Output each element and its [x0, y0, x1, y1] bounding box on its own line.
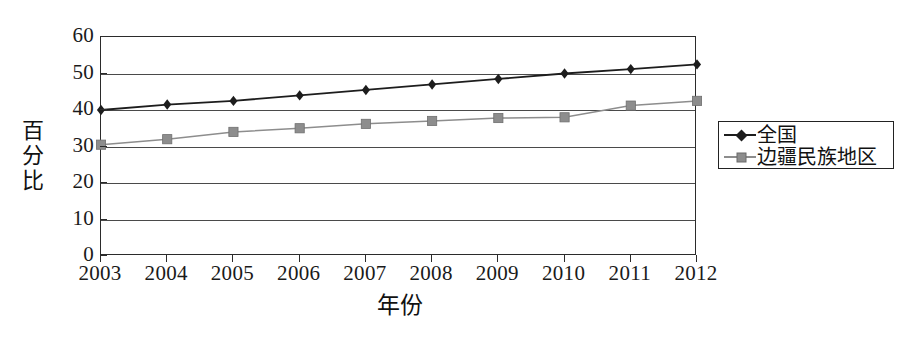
x-tick-label-2010: 2010: [529, 262, 599, 284]
data-point-2011: [626, 101, 635, 110]
data-point-2005: [229, 96, 237, 106]
data-point-2010: [560, 113, 569, 122]
square-marker-icon: [723, 147, 757, 167]
y-tick-mark-60: [100, 36, 107, 37]
series-line: [101, 101, 697, 145]
x-tick-label-2011: 2011: [595, 262, 665, 284]
y-tick-mark-30: [100, 146, 107, 147]
data-point-2009: [494, 74, 502, 84]
y-tick-mark-10: [100, 219, 107, 220]
series-national: [97, 59, 701, 115]
x-tick-label-2012: 2012: [661, 262, 731, 284]
diamond-marker-icon: [723, 125, 757, 145]
data-point-2009: [494, 113, 503, 122]
data-point-2008: [428, 116, 437, 125]
legend-item-border-region: 边疆民族地区: [723, 146, 889, 168]
y-tick-label-50: 50: [60, 62, 94, 83]
data-point-2011: [627, 64, 635, 74]
data-point-2003: [97, 105, 105, 115]
plot-area: [100, 36, 696, 255]
y-tick-mark-20: [100, 182, 107, 183]
data-point-2010: [560, 68, 568, 78]
data-point-2004: [163, 135, 172, 144]
y-tick-mark-50: [100, 73, 107, 74]
legend-item-national: 全国: [723, 124, 889, 146]
x-tick-label-2008: 2008: [396, 262, 466, 284]
y-axis-tick-labels: 0102030405060: [54, 0, 94, 348]
x-tick-label-2003: 2003: [65, 262, 135, 284]
data-point-2005: [229, 127, 238, 136]
y-axis-title-char-3: 比: [18, 168, 48, 193]
series-line: [101, 64, 697, 110]
data-point-2007: [361, 119, 370, 128]
series-plot: [101, 37, 697, 256]
y-tick-label-40: 40: [60, 98, 94, 119]
x-tick-label-2006: 2006: [264, 262, 334, 284]
y-axis-title-char-2: 分: [18, 143, 48, 168]
x-tick-label-2009: 2009: [462, 262, 532, 284]
legend-label-national: 全国: [757, 125, 797, 146]
data-point-2007: [362, 85, 370, 95]
x-axis-title: 年份: [330, 292, 470, 318]
x-tick-label-2007: 2007: [330, 262, 400, 284]
y-tick-mark-40: [100, 109, 107, 110]
legend-label-border-region: 边疆民族地区: [757, 147, 877, 168]
chart-legend: 全国 边疆民族地区: [718, 121, 894, 169]
x-tick-label-2005: 2005: [197, 262, 267, 284]
data-point-2012: [692, 96, 701, 105]
y-axis-title-char-1: 百: [18, 118, 48, 143]
y-tick-label-10: 10: [60, 208, 94, 229]
data-point-2006: [296, 90, 304, 100]
chart-screenshot: 百 分 比 0102030405060 20032004200520062007…: [0, 0, 924, 348]
x-tick-label-2004: 2004: [131, 262, 201, 284]
data-point-2004: [163, 99, 171, 109]
y-axis-title: 百 分 比: [18, 118, 48, 193]
y-tick-label-20: 20: [60, 171, 94, 192]
y-tick-mark-0: [100, 255, 107, 256]
data-point-2012: [693, 59, 701, 69]
data-point-2008: [428, 79, 436, 89]
data-point-2006: [295, 124, 304, 133]
y-tick-label-30: 30: [60, 135, 94, 156]
y-tick-label-60: 60: [60, 25, 94, 46]
